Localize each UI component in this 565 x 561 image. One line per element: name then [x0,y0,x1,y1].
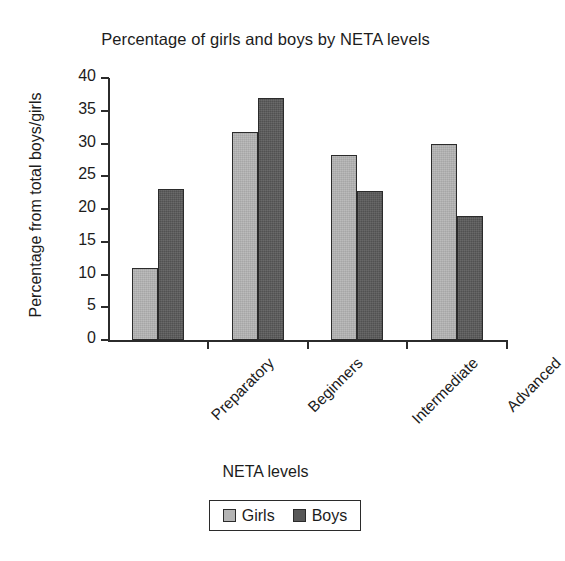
y-tick-mark [101,175,109,177]
x-tick-mark [307,340,309,349]
y-tick-label: 0 [66,329,96,347]
y-tick-label: 35 [66,100,96,118]
bar-girls-beginners [232,132,258,340]
chart-title: Percentage of girls and boys by NETA lev… [0,30,531,49]
y-tick-mark [101,143,109,145]
y-tick-label: 30 [66,133,96,151]
bar-girls-preparatory [132,268,158,340]
x-axis-label: NETA levels [0,463,531,481]
y-tick-mark [101,208,109,210]
bar-girls-intermediate [331,155,357,340]
y-axis-label-container: Percentage from total boys/girls [24,70,48,340]
x-category-label-beginners: Beginners [304,354,366,416]
bar-boys-intermediate [357,191,383,340]
y-tick-label: 5 [66,296,96,314]
y-tick-mark [101,110,109,112]
bar-girls-advanced [431,144,457,341]
plot-area: 0510152025303540 [108,78,507,340]
legend-label: Boys [312,507,348,525]
y-tick-mark [101,241,109,243]
legend-entry-girls[interactable]: Girls [223,507,275,525]
y-tick-label: 20 [66,198,96,216]
y-tick-label: 40 [66,67,96,85]
chart-legend: GirlsBoys [209,500,361,531]
bar-boys-advanced [457,216,483,340]
y-axis-label: Percentage from total boys/girls [27,93,45,318]
bar-boys-preparatory [158,189,184,340]
x-category-label-intermediate: Intermediate [409,354,483,428]
legend-swatch-icon [223,509,236,522]
legend-swatch-icon [293,509,306,522]
x-tick-mark [506,340,508,349]
y-tick-label: 25 [66,165,96,183]
x-category-label-preparatory: Preparatory [208,354,278,424]
x-tick-mark [207,340,209,349]
legend-label: Girls [242,507,275,525]
y-tick-mark [101,77,109,79]
x-tick-mark [406,340,408,349]
legend-entry-boys[interactable]: Boys [293,507,348,525]
y-tick-label: 10 [66,264,96,282]
y-tick-mark [101,306,109,308]
y-tick-mark [101,339,109,341]
y-tick-label: 15 [66,231,96,249]
bar-boys-beginners [258,98,284,340]
y-tick-mark [101,274,109,276]
x-category-label-advanced: Advanced [503,354,564,415]
